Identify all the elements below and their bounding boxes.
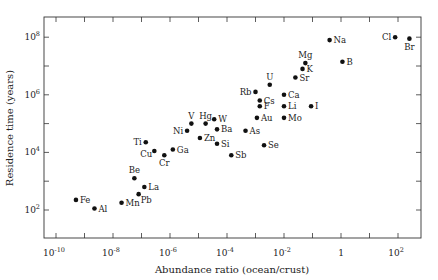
data-point-la: La (142, 182, 159, 192)
data-point-b: B (340, 57, 353, 67)
point-marker (185, 129, 190, 134)
point-label: U (266, 72, 273, 82)
data-point-i: I (309, 101, 319, 111)
point-marker (142, 185, 147, 190)
data-point-al: Al (92, 204, 107, 214)
data-point-ba: Ba (215, 124, 233, 134)
point-label: Mg (298, 50, 313, 60)
data-point-sr: Sr (293, 73, 310, 83)
point-label: Li (288, 101, 297, 111)
data-point-cu: Cu (140, 149, 156, 159)
point-label: Mn (126, 198, 141, 208)
point-label: Se (268, 140, 279, 150)
point-marker (255, 116, 260, 121)
point-marker (267, 82, 272, 87)
x-tick-label: 10-8 (102, 246, 120, 258)
point-label: La (148, 182, 159, 192)
point-label: K (307, 64, 314, 74)
x-tick-label: 102 (388, 246, 404, 258)
data-point-cl: Cl (382, 32, 398, 42)
point-label: B (346, 57, 352, 67)
data-point-cr: Cr (159, 153, 171, 168)
data-point-mo: Mo (282, 113, 302, 123)
point-label: Cl (382, 32, 392, 42)
point-label: Sb (235, 150, 247, 160)
point-marker (253, 90, 258, 95)
point-label: Zn (204, 133, 216, 143)
data-point-hg: Hg (199, 111, 212, 126)
point-marker (189, 121, 194, 126)
data-point-be: Be (129, 165, 140, 180)
point-label: Fe (80, 195, 90, 205)
point-marker (303, 61, 308, 66)
data-point-li: Li (282, 101, 297, 111)
point-marker (119, 201, 124, 206)
point-label: Rb (240, 87, 252, 97)
data-point-ga: Ga (171, 145, 189, 155)
point-marker (393, 35, 398, 40)
point-marker (282, 116, 287, 121)
point-label: I (315, 101, 318, 111)
data-point-rb: Rb (240, 87, 258, 97)
point-label: Au (260, 113, 273, 123)
point-label: Cu (140, 149, 153, 159)
data-point-mn: Mn (119, 198, 140, 208)
point-marker (407, 36, 412, 41)
point-label: W (218, 114, 227, 124)
x-tick-label: 10-6 (159, 246, 177, 258)
point-marker (282, 93, 287, 98)
point-label: Cr (159, 158, 171, 168)
x-axis-ticks: 10-1010-810-610-410-21102 (43, 17, 404, 258)
y-tick-label: 104 (24, 145, 40, 157)
x-tick-label: 10-2 (273, 246, 291, 258)
point-marker (132, 176, 137, 181)
point-marker (215, 141, 220, 146)
point-marker (262, 143, 267, 148)
data-point-ni: Ni (173, 126, 189, 136)
point-label: V (187, 111, 195, 121)
point-marker (243, 129, 248, 134)
point-label: Ti (133, 137, 142, 147)
point-marker (203, 121, 208, 126)
point-marker (327, 38, 332, 43)
data-point-u: U (266, 72, 273, 87)
point-label: Ga (177, 145, 189, 155)
x-tick-label: 10-10 (43, 246, 65, 258)
point-marker (257, 104, 262, 109)
point-marker (152, 149, 157, 154)
point-marker (340, 59, 345, 64)
y-axis-title: Residence time (years) (4, 70, 15, 186)
point-label: Be (129, 165, 140, 175)
data-point-si: Si (215, 139, 230, 149)
y-tick-label: 108 (24, 30, 40, 42)
data-point-br: Br (404, 36, 415, 51)
point-label: Hg (199, 111, 212, 121)
point-marker (282, 104, 287, 109)
data-point-w: W (212, 114, 227, 124)
data-point-na: Na (327, 35, 346, 45)
data-point-se: Se (262, 140, 279, 150)
y-tick-label: 106 (24, 88, 40, 100)
point-marker (162, 153, 167, 158)
data-point-sb: Sb (229, 150, 247, 160)
point-label: Pb (141, 195, 153, 205)
point-marker (229, 153, 234, 158)
point-marker (309, 104, 314, 109)
data-point-ca: Ca (282, 90, 300, 100)
scatter-chart: 10-1010-810-610-410-21102 102104106108 F… (0, 0, 438, 280)
y-tick-label: 102 (24, 203, 40, 215)
data-point-zn: Zn (198, 133, 216, 143)
point-marker (300, 67, 305, 72)
data-points: FeAlMnBePbLaTiCuCrGaNiVHgWBaZnSiSbAsAuSe… (74, 32, 416, 213)
x-tick-label: 1 (338, 248, 344, 258)
point-label: As (249, 126, 261, 136)
point-label: Na (334, 35, 347, 45)
point-marker (212, 117, 217, 122)
data-point-au: Au (255, 113, 273, 123)
point-marker (215, 127, 220, 132)
point-marker (74, 198, 79, 203)
point-marker (293, 75, 298, 80)
data-point-as: As (243, 126, 260, 136)
data-point-ti: Ti (133, 137, 148, 147)
point-label: Ni (173, 126, 183, 136)
